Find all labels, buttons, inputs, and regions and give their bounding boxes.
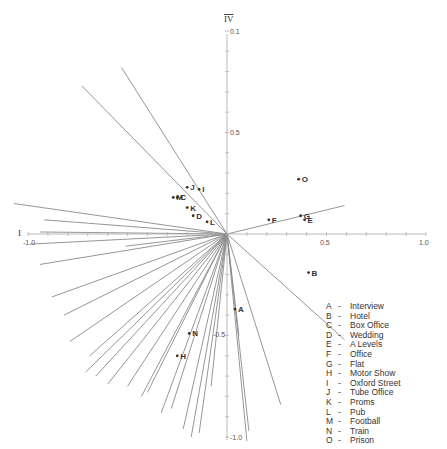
y-tick-neg: -1.0 xyxy=(230,434,242,441)
data-point-b xyxy=(307,271,310,274)
point-label: H xyxy=(180,352,186,361)
data-point-m xyxy=(172,196,175,199)
point-label: F xyxy=(272,216,277,225)
loading-vector xyxy=(227,234,239,336)
x-tick-pos: 1.0 xyxy=(419,239,429,246)
loading-vector xyxy=(82,86,227,234)
data-point-g xyxy=(299,214,302,217)
point-label: O xyxy=(302,175,308,184)
loading-vector xyxy=(147,234,227,392)
legend-item: O-Prison xyxy=(326,436,401,446)
legend-label: Prison xyxy=(350,436,374,446)
y-tick-neg-half: -0.5 xyxy=(213,331,225,338)
data-point-a xyxy=(234,308,237,311)
legend-key: O xyxy=(326,436,338,446)
data-point-d xyxy=(192,214,195,217)
loading-vector xyxy=(227,206,344,234)
data-point-i xyxy=(198,188,201,191)
loading-vector xyxy=(52,234,227,297)
point-label: L xyxy=(210,218,215,227)
legend: A-InterviewB-HotelC-Box OfficeD-WeddingE… xyxy=(326,302,401,446)
y-axis-label: IV xyxy=(224,14,234,24)
data-point-h xyxy=(176,354,179,357)
loading-vectors xyxy=(14,68,344,442)
point-label: N xyxy=(192,329,198,338)
data-points: ABCDEFGHIJKLMNO xyxy=(172,175,318,361)
y-tick-top: 0.1 xyxy=(230,28,240,35)
point-label: G xyxy=(304,212,310,221)
loading-vector xyxy=(161,234,227,413)
data-point-o xyxy=(297,178,300,181)
legend-separator: - xyxy=(338,436,350,446)
point-label: B xyxy=(312,269,318,278)
loading-vector xyxy=(86,234,227,372)
point-label: D xyxy=(196,212,202,221)
point-label: A xyxy=(238,305,244,314)
data-point-f xyxy=(267,218,270,221)
data-point-j xyxy=(186,186,189,189)
loading-vector xyxy=(171,234,227,409)
data-point-k xyxy=(186,206,189,209)
loading-vector xyxy=(90,234,227,356)
loading-vector xyxy=(64,234,227,315)
data-point-n xyxy=(188,332,191,335)
point-label: J xyxy=(190,183,194,192)
x-tick-neg: -1.0 xyxy=(23,239,35,246)
data-point-l xyxy=(206,220,209,223)
loading-vector xyxy=(70,234,227,342)
loading-vector xyxy=(128,234,228,386)
y-tick-half: 0.5 xyxy=(230,129,240,136)
x-tick-half: 0.5 xyxy=(320,239,330,246)
loading-vector xyxy=(96,234,227,376)
point-label: K xyxy=(190,204,196,213)
loading-vector xyxy=(141,234,227,396)
x-axis-label: I xyxy=(18,228,21,238)
loading-vector xyxy=(122,68,227,234)
point-label: I xyxy=(202,185,204,194)
point-label: M xyxy=(176,193,183,202)
